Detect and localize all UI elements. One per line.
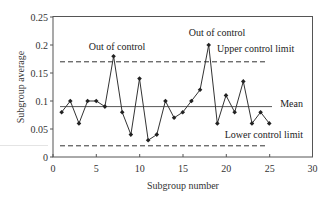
x-tick-label: 30 — [308, 163, 318, 174]
control-chart: 0 0.05 0.1 0.15 0.2 0.25 0 5 10 15 20 25… — [0, 0, 333, 203]
annotation-upper-control-limit: Upper control limit — [217, 43, 294, 54]
y-tick-label: 0.1 — [36, 96, 49, 107]
data-point-marker — [206, 43, 211, 48]
annotation-lower-control-limit: Lower control limit — [225, 129, 304, 140]
data-point-marker — [163, 99, 168, 104]
annotation-mean: Mean — [280, 98, 303, 109]
x-tick-label: 15 — [178, 163, 188, 174]
annotation-out-of-control-18: Out of control — [189, 27, 246, 38]
x-tick-label: 0 — [51, 163, 56, 174]
data-point-marker — [77, 121, 82, 126]
x-tick-label: 25 — [265, 163, 275, 174]
y-axis-title: Subgroup average — [15, 50, 26, 123]
data-point-marker — [120, 110, 125, 115]
y-tick-label: 0 — [43, 152, 48, 163]
x-tick-labels: 0 5 10 15 20 25 30 — [51, 163, 318, 174]
data-point-marker — [129, 132, 134, 137]
data-point-marker — [111, 54, 116, 59]
data-point-marker — [224, 93, 229, 98]
y-tick-label: 0.25 — [31, 12, 49, 23]
x-tick-label: 20 — [221, 163, 231, 174]
data-point-marker — [85, 99, 90, 104]
x-tick-label: 10 — [135, 163, 145, 174]
data-point-marker — [137, 76, 142, 81]
y-tick-label: 0.15 — [31, 68, 49, 79]
data-point-marker — [241, 79, 246, 84]
y-tick-label: 0.05 — [31, 124, 49, 135]
x-axis-title: Subgroup number — [147, 180, 220, 191]
subgroup-average-line — [62, 45, 270, 140]
data-point-marker — [232, 110, 237, 115]
data-point-marker — [215, 121, 220, 126]
x-tick-label: 5 — [94, 163, 99, 174]
y-tick-labels: 0 0.05 0.1 0.15 0.2 0.25 — [31, 12, 49, 163]
annotation-out-of-control-7: Out of control — [89, 41, 146, 52]
y-tick-label: 0.2 — [36, 40, 49, 51]
